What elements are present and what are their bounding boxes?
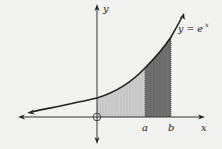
x-axis-label: x	[201, 122, 207, 133]
function-label: y = e	[177, 23, 203, 34]
diagram-svg: y x a b y = e x	[0, 0, 222, 149]
function-exponent-label: x	[205, 21, 209, 29]
y-axis	[95, 4, 100, 144]
dark-shaded-area	[145, 37, 171, 117]
y-axis-label: y	[102, 3, 109, 14]
point-b-label: b	[168, 122, 174, 133]
point-a-label: a	[142, 122, 148, 133]
exponential-area-diagram: y x a b y = e x	[0, 0, 222, 149]
